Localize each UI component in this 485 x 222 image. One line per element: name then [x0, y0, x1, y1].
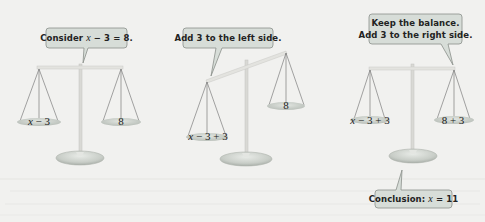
left-pan-ropes	[188, 82, 226, 136]
scale-pole	[79, 64, 82, 156]
left-pan-label: x − 3 + 3	[349, 114, 390, 126]
bubble-text-line-1: Keep the balance.	[371, 18, 459, 28]
left-pan-ropes	[20, 69, 58, 121]
bubble-text: Consider x − 3 = 8.	[40, 32, 133, 43]
bubble-text-line-2: Add 3 to the right side.	[359, 30, 473, 40]
right-pan-label: 8 + 3	[442, 114, 465, 126]
panel-step-1: x − 3 8 Consider x − 3 = 8.	[17, 28, 141, 165]
right-pan-label: 8	[283, 99, 289, 111]
speech-bubble: Add 3 to the left side.	[174, 28, 281, 76]
speech-bubble: Keep the balance. Add 3 to the right sid…	[359, 14, 473, 65]
conclusion-text: Conclusion: x = 11	[369, 193, 458, 204]
scale-beam	[369, 67, 455, 70]
right-pan-ropes	[103, 69, 139, 121]
scale-pole	[245, 60, 248, 158]
conclusion-bubble: Conclusion: x = 11	[369, 170, 458, 208]
scale-beam	[37, 66, 123, 69]
left-pan-ropes	[354, 70, 385, 119]
speech-bubble: Consider x − 3 = 8.	[40, 28, 133, 63]
left-pan-label: x − 3 + 3	[187, 130, 228, 142]
left-pan-label: x − 3	[27, 115, 51, 127]
bubble-text: Add 3 to the left side.	[174, 33, 281, 43]
right-pan-label: 8	[118, 115, 124, 127]
scale-pole	[411, 64, 414, 152]
right-pan-ropes	[437, 70, 470, 119]
balance-scale-figure: x − 3 8 Consider x − 3 = 8. x − 3 + 3	[0, 0, 485, 222]
right-pan-ropes	[269, 53, 304, 105]
panel-step-2: x − 3 + 3 8 Add 3 to the left side.	[174, 28, 305, 166]
